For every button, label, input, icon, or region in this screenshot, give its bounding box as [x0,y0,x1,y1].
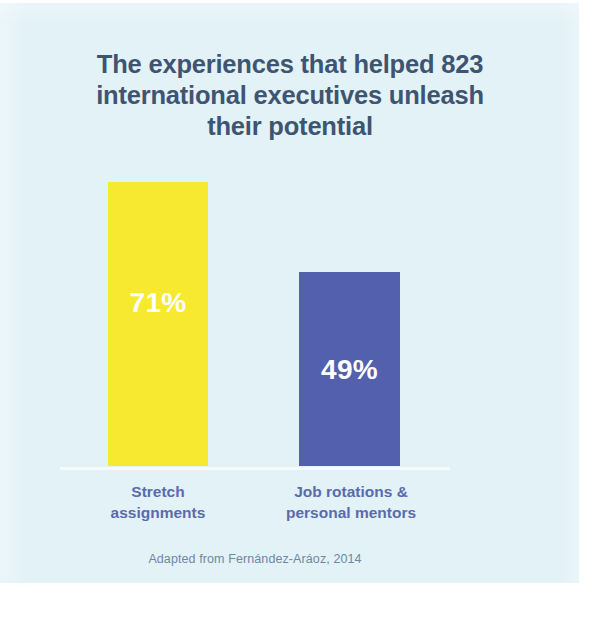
chart-baseline-axis [60,467,450,470]
chart-title-line-2: international executives unleash [36,80,544,111]
chart-source-note: Adapted from Fernández-Aráoz, 2014 [60,552,450,566]
chart-title-line-3: their potential [36,111,544,142]
chart-title: The experiences that helped 823 internat… [36,49,544,142]
bar-job-rotations-personal-mentors[interactable]: 49% [299,272,400,466]
category-label-stretch-assignments-line-1: Stretch [78,481,238,502]
bar-stretch-assignments[interactable]: 71% [108,182,208,466]
bar-value-label-job-rotations-personal-mentors: 49% [299,354,400,386]
category-label-job-rotations-personal-mentors-line-1: Job rotations & [265,481,437,502]
category-label-job-rotations-personal-mentors-line-2: personal mentors [265,502,437,523]
chart-figure: The experiences that helped 823 internat… [0,3,579,583]
category-label-job-rotations-personal-mentors: Job rotations & personal mentors [265,481,437,523]
chart-title-line-1: The experiences that helped 823 [36,49,544,80]
bar-value-label-stretch-assignments: 71% [108,287,208,319]
category-label-stretch-assignments: Stretch assignments [78,481,238,523]
category-label-stretch-assignments-line-2: assignments [78,502,238,523]
